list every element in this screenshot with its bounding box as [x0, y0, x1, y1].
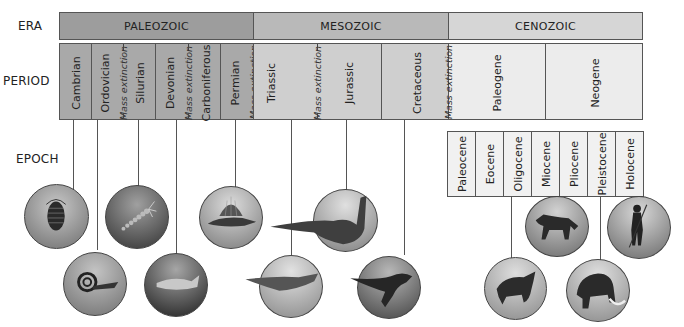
- horse-icon: [526, 197, 588, 256]
- connector-cretaceous: [404, 120, 405, 255]
- period-ordovician-silurian: Ordovician Mass extinction Silurian: [91, 43, 156, 120]
- period-carboniferous-label: Carboniferous: [200, 44, 213, 121]
- connector-silurian: [138, 120, 139, 186]
- epoch-pliocene: Pliocene: [559, 131, 588, 197]
- mass-extinction-tick: [123, 44, 124, 50]
- period-neogene-label: Neogene: [589, 58, 602, 107]
- mass-extinction-cretaceous: Mass extinction: [443, 45, 454, 119]
- dimetrodon-illustration: [199, 186, 263, 249]
- era-row-label: ERA: [18, 19, 42, 33]
- epoch-row-label: EPOCH: [16, 152, 59, 166]
- epoch-holocene: Holocene: [615, 131, 644, 197]
- connector-ordovician: [97, 120, 98, 250]
- era-mesozoic: MESOZOIC: [253, 12, 449, 40]
- armored-fish-illustration: [144, 253, 208, 317]
- connector-triassic: [291, 120, 292, 255]
- sauropod-icon: [314, 190, 377, 251]
- epoch-miocene-label: Miocene: [540, 141, 553, 187]
- trilobite-icon: [25, 185, 88, 248]
- connector-pleistocene: [600, 197, 601, 267]
- mass-extinction-tick: [317, 113, 318, 119]
- period-paleogene: Paleogene: [448, 43, 546, 120]
- trilobite-illustration: [24, 184, 89, 249]
- rhinoceros-icon: [485, 258, 546, 319]
- connector-devonian: [176, 120, 177, 254]
- era-paleozoic: PALEOZOIC: [59, 12, 254, 40]
- period-cretaceous: Cretaceous: [381, 43, 449, 120]
- mass-extinction-tick: [188, 113, 189, 119]
- epoch-eocene-label: Eocene: [484, 144, 497, 184]
- period-triassic-jurassic: Triassic Mass extinction Jurassic: [253, 43, 382, 120]
- epoch-miocene: Miocene: [531, 131, 560, 197]
- era-mesozoic-label: MESOZOIC: [320, 20, 382, 33]
- sea-scorpion-icon: [106, 186, 168, 248]
- connector-jurassic: [346, 120, 347, 190]
- period-row-label: PERIOD: [3, 74, 50, 88]
- ammonite-icon: [64, 253, 126, 315]
- human-icon: [608, 197, 670, 258]
- theropod-icon: [358, 257, 420, 318]
- period-devonian-label: Devonian: [164, 57, 177, 109]
- period-cambrian: Cambrian: [59, 43, 92, 120]
- mass-extinction-ordovician: Mass extinction: [118, 46, 129, 120]
- rhinoceros-illustration: [484, 257, 547, 320]
- connector-permian: [235, 120, 236, 187]
- epoch-oligocene: Oligocene: [503, 131, 532, 197]
- period-neogene: Neogene: [545, 43, 643, 120]
- early-dinosaur-icon: [260, 256, 322, 317]
- period-ordovician-label: Ordovician: [99, 53, 112, 112]
- mammoth-illustration: [566, 259, 630, 322]
- epoch-pleistocene: Pleistocene: [587, 131, 616, 197]
- sauropod-illustration: [313, 189, 378, 252]
- epoch-pleistocene-label: Pleistocene: [596, 133, 609, 196]
- period-triassic-label: Triassic: [265, 63, 278, 103]
- nautiloid-illustration: [63, 252, 127, 316]
- era-paleozoic-label: PALEOZOIC: [124, 20, 189, 33]
- sea-scorpion-illustration: [105, 185, 169, 249]
- early-dinosaur-illustration: [259, 255, 323, 318]
- epoch-pliocene-label: Pliocene: [568, 141, 581, 187]
- epoch-paleocene-label: Paleocene: [456, 136, 469, 192]
- mass-extinction-triassic: Mass extinction: [312, 46, 323, 120]
- mass-extinction-tick: [123, 113, 124, 119]
- period-devonian-carboniferous: Devonian Mass extinction Carboniferous: [155, 43, 221, 120]
- dimetrodon-icon: [200, 187, 262, 248]
- era-cenozoic-label: CENOZOIC: [515, 20, 576, 33]
- period-silurian-label: Silurian: [134, 62, 147, 103]
- era-cenozoic: CENOZOIC: [448, 12, 643, 40]
- period-jurassic-label: Jurassic: [343, 62, 356, 104]
- mammoth-icon: [567, 260, 629, 321]
- epoch-paleocene: Paleocene: [447, 131, 476, 197]
- epoch-oligocene-label: Oligocene: [512, 136, 525, 191]
- period-cretaceous-label: Cretaceous: [411, 52, 424, 114]
- period-paleogene-label: Paleogene: [491, 55, 504, 112]
- fish-icon: [145, 254, 207, 316]
- horse-illustration: [525, 196, 589, 257]
- mass-extinction-tick: [317, 44, 318, 50]
- mass-extinction-tick: [188, 44, 189, 50]
- period-permian-label: Permian: [229, 61, 242, 106]
- mass-extinction-devonian: Mass extinction: [183, 46, 194, 120]
- epoch-holocene-label: Holocene: [624, 138, 637, 189]
- human-illustration: [607, 196, 671, 259]
- period-cambrian-label: Cambrian: [70, 56, 83, 109]
- theropod-illustration: [357, 256, 421, 319]
- epoch-eocene: Eocene: [475, 131, 504, 197]
